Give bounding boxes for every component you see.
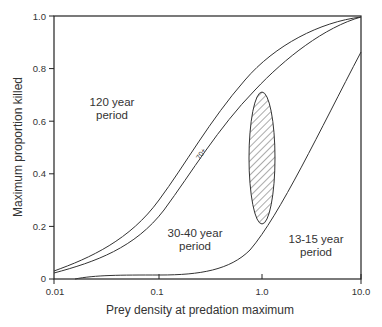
- hatched-region: [249, 92, 275, 224]
- x-tick-label: 0.1: [150, 286, 163, 297]
- y-axis: [49, 16, 54, 279]
- region-label-30-40-year: 30-40 year: [168, 227, 223, 239]
- x-tick-label: 1.0: [255, 286, 268, 297]
- y-tick-label: 1.0: [33, 11, 46, 22]
- x-axis-title: Prey density at predation maximum: [106, 303, 294, 317]
- y-tick-label: 0.8: [33, 63, 46, 74]
- x-tick-label: 0.01: [46, 286, 65, 297]
- region-label-13-15-year: period: [300, 246, 332, 258]
- y-tick-label: 0.6: [33, 116, 46, 127]
- y-tick-label: 0: [41, 273, 46, 284]
- y-tick-label: 0.4: [33, 168, 46, 179]
- region-label-13-15-year: 13-15 year: [289, 233, 344, 245]
- curve-label-70plus: 70+: [195, 147, 207, 161]
- x-tick-label: 10.0: [352, 286, 371, 297]
- y-axis-title: Maximum proportion killed: [11, 77, 25, 217]
- region-label-30-40-year: period: [179, 240, 211, 252]
- predation-chart: 0 0.2 0.4 0.6 0.8 1.0 0.01 0.1 1.0 10.0 …: [0, 0, 382, 327]
- y-tick-label: 0.2: [33, 221, 46, 232]
- region-label-120-year: period: [96, 109, 128, 121]
- region-label-120-year: 120 year: [90, 96, 135, 108]
